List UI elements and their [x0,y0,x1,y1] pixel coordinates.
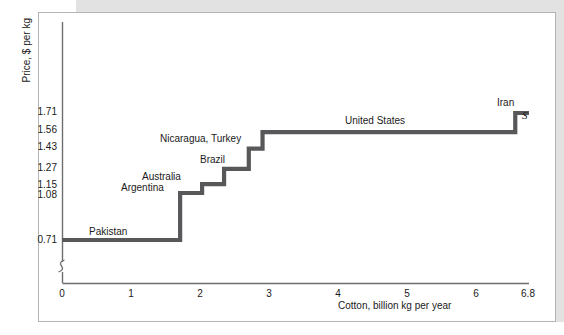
x-tick-label-1: 1 [116,288,146,299]
x-tick-label-5: 5 [392,288,422,299]
x-tick-label-3: 3 [254,288,284,299]
y-tick-label-0-71: 0.71 [23,234,57,245]
step-label-brazil: Brazil [199,154,226,165]
y-tick-label-1-27: 1.27 [23,162,57,173]
x-tick-label-2: 2 [185,288,215,299]
step-label-iran: Iran [496,97,515,108]
y-axis-title: Price, $ per kg [21,18,32,82]
supply-curve-annotation: S [522,109,528,121]
y-tick-label-1-08: 1.08 [23,189,57,200]
x-tick-label-4: 4 [323,288,353,299]
x-tick-label-6: 6 [461,288,491,299]
step-label-nicaragua-turkey: Nicaragua, Turkey [159,133,242,144]
y-tick-label-1-43: 1.43 [23,141,57,152]
step-label-argentina: Argentina [120,182,165,193]
chart-plot-area [0,0,564,335]
x-axis-title: Cotton, billion kg per year [338,300,451,311]
step-label-pakistan: Pakistan [88,226,128,237]
x-tick-label-0: 0 [47,288,77,299]
y-axis-break-icon [59,260,65,272]
y-tick-label-1-71: 1.71 [23,106,57,117]
step-label-australia: Australia [141,171,182,182]
step-label-united-states: United States [344,115,406,126]
chart-figure: Price, $ per kg 1.71 1.56 1.43 1.27 1.15… [0,0,564,335]
y-tick-label-1-56: 1.56 [23,124,57,135]
supply-step-curve [62,113,529,240]
x-tick-label-6-8: 6.8 [513,288,543,299]
